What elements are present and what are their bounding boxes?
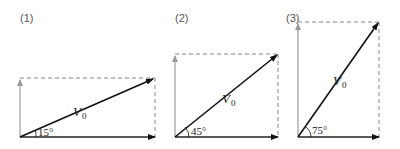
figure-1-label: (1) bbox=[20, 12, 33, 24]
figure-2: (2) 45° V 0 bbox=[175, 12, 278, 137]
figure-3: (3) 75° V 0 bbox=[286, 12, 379, 137]
angle-arc-icon bbox=[36, 131, 37, 137]
svg-text:0: 0 bbox=[342, 80, 347, 90]
svg-text:0: 0 bbox=[82, 111, 87, 121]
svg-text:0: 0 bbox=[231, 98, 236, 108]
figure-1: (1) 15° V 0 bbox=[20, 12, 155, 138]
angle-label: 75° bbox=[312, 124, 327, 136]
figure-2-label: (2) bbox=[175, 12, 188, 24]
angle-label: 15° bbox=[38, 126, 53, 138]
angle-arc-icon bbox=[306, 127, 311, 137]
angle-label: 45° bbox=[191, 125, 206, 137]
velocity-decomposition-diagram: (1) 15° V 0 (2) 45° V 0 (3) 75° V 0 bbox=[0, 0, 400, 149]
figure-3-label: (3) bbox=[286, 12, 299, 24]
